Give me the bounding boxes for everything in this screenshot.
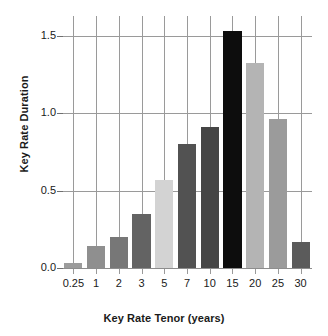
x-axis-title: Key Rate Tenor (years) — [0, 312, 328, 324]
bar — [246, 63, 264, 268]
bar — [178, 144, 196, 268]
y-tick-label: 1.0 — [16, 107, 56, 118]
bar — [201, 127, 219, 268]
y-tick-mark — [57, 113, 63, 114]
bar — [269, 119, 287, 268]
bar — [292, 242, 310, 268]
y-tick-mark — [57, 268, 63, 269]
gridline-vertical — [73, 16, 74, 274]
bar — [87, 246, 105, 268]
bar — [132, 214, 150, 268]
y-tick-label: 0.0 — [16, 262, 56, 273]
gridline-vertical — [119, 16, 120, 274]
y-tick-mark — [57, 36, 63, 37]
plot-area — [62, 20, 312, 268]
gridline-vertical — [96, 16, 97, 274]
gridline-vertical — [301, 16, 302, 274]
y-axis-title: Key Rate Duration — [18, 39, 30, 209]
bar — [155, 180, 173, 268]
y-tick-mark — [57, 191, 63, 192]
x-tick-label: 30 — [281, 278, 321, 289]
bar — [223, 31, 241, 268]
y-tick-label: 1.5 — [16, 30, 56, 41]
bar — [110, 237, 128, 268]
key-rate-duration-bar-chart: Key Rate Duration Key Rate Tenor (years)… — [0, 0, 328, 336]
y-tick-label: 0.5 — [16, 185, 56, 196]
x-axis-baseline — [62, 268, 312, 269]
